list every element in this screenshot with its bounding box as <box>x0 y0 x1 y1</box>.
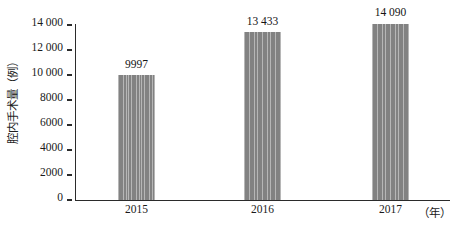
bar-chart-figure: 腔内手术量（例） 0200040006000800010 00012 00014… <box>0 0 461 225</box>
y-tick-mark <box>67 149 72 150</box>
y-tick-label: 4000 <box>40 142 63 154</box>
y-tick-mark <box>67 174 72 175</box>
x-tick-label: 2015 <box>107 204 167 216</box>
plot-area: 999713 43314 090 <box>75 25 450 200</box>
y-tick-mark <box>67 99 72 100</box>
y-tick-label: 14 000 <box>31 17 63 29</box>
y-tick-mark <box>67 74 72 75</box>
y-tick-label: 12 000 <box>31 42 63 54</box>
y-tick-label: 0 <box>57 192 63 204</box>
bar-group: 13 433 <box>244 25 281 200</box>
y-tick-mark <box>67 199 72 200</box>
y-tick-mark <box>67 49 72 50</box>
y-tick-label: 6000 <box>40 117 63 129</box>
bar-2017 <box>372 24 409 200</box>
x-tick-label: 2016 <box>233 204 293 216</box>
y-tick-mark <box>67 124 72 125</box>
y-tick-mark <box>67 24 72 25</box>
bar-value-label: 13 433 <box>247 16 279 28</box>
y-tick-label: 10 000 <box>31 67 63 79</box>
bar-value-label: 9997 <box>125 59 148 71</box>
y-axis-title: 腔内手术量（例） <box>0 0 24 200</box>
bar-2015 <box>118 75 155 200</box>
bar-2016 <box>244 32 281 200</box>
y-tick-label: 8000 <box>40 92 63 104</box>
y-axis-title-text: 腔内手术量（例） <box>4 56 20 144</box>
y-tick-label: 2000 <box>40 167 63 179</box>
x-axis-unit-label: （年） <box>408 204 460 220</box>
bar-value-label: 14 090 <box>375 7 407 19</box>
bar-group: 14 090 <box>372 25 409 200</box>
bar-group: 9997 <box>118 25 155 200</box>
